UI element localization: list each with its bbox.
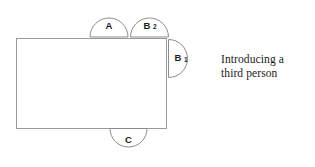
caption-text: Introducing a third person — [221, 53, 313, 80]
seat-b1-label: B — [175, 52, 182, 63]
seat-b2-label: B — [144, 20, 151, 31]
seat-a: A — [90, 18, 128, 37]
seat-a-label: A — [106, 20, 113, 31]
seating-diagram: A B 2 B 1 C Introducing a third person — [0, 0, 315, 167]
seat-b2-subscript: 2 — [153, 23, 157, 30]
seat-b1: B 1 — [169, 40, 189, 78]
seat-b2: B 2 — [131, 18, 169, 37]
diagram-canvas: A B 2 B 1 C — [0, 0, 315, 167]
seat-b1-subscript: 1 — [184, 56, 188, 63]
seat-c: C — [110, 129, 147, 148]
seat-c-label: C — [125, 134, 132, 145]
table-surface — [17, 39, 167, 129]
